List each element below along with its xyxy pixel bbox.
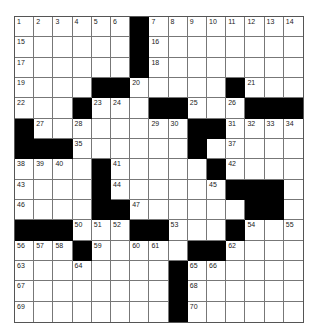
grid-cell[interactable] (130, 119, 149, 139)
grid-cell[interactable] (245, 139, 264, 159)
grid-cell[interactable] (149, 159, 168, 179)
grid-cell[interactable]: 22 (15, 98, 34, 118)
grid-cell[interactable] (284, 139, 303, 159)
grid-cell[interactable]: 45 (207, 180, 226, 200)
grid-cell[interactable] (245, 241, 264, 261)
grid-cell[interactable]: 66 (207, 261, 226, 281)
grid-cell[interactable] (92, 261, 111, 281)
grid-cell[interactable]: 51 (92, 220, 111, 240)
grid-cell[interactable]: 57 (34, 241, 53, 261)
grid-cell[interactable] (34, 58, 53, 78)
grid-cell[interactable] (73, 58, 92, 78)
grid-cell[interactable] (188, 200, 207, 220)
grid-cell[interactable]: 62 (226, 241, 245, 261)
grid-cell[interactable] (226, 302, 245, 322)
grid-cell[interactable]: 1 (15, 17, 34, 37)
grid-cell[interactable] (92, 302, 111, 322)
grid-cell[interactable]: 59 (92, 241, 111, 261)
grid-cell[interactable] (284, 200, 303, 220)
grid-cell[interactable] (34, 37, 53, 57)
grid-cell[interactable]: 31 (226, 119, 245, 139)
grid-cell[interactable]: 12 (245, 17, 264, 37)
grid-cell[interactable] (73, 200, 92, 220)
grid-cell[interactable]: 37 (226, 139, 245, 159)
grid-cell[interactable] (53, 180, 72, 200)
grid-cell[interactable] (92, 281, 111, 301)
grid-cell[interactable] (207, 78, 226, 98)
grid-cell[interactable]: 28 (73, 119, 92, 139)
grid-cell[interactable] (53, 261, 72, 281)
grid-cell[interactable] (53, 37, 72, 57)
grid-cell[interactable] (265, 78, 284, 98)
grid-cell[interactable] (92, 58, 111, 78)
grid-cell[interactable]: 32 (245, 119, 264, 139)
grid-cell[interactable] (188, 220, 207, 240)
grid-cell[interactable]: 5 (92, 17, 111, 37)
grid-cell[interactable] (226, 281, 245, 301)
grid-cell[interactable] (149, 302, 168, 322)
grid-cell[interactable] (284, 159, 303, 179)
grid-cell[interactable]: 47 (130, 200, 149, 220)
grid-cell[interactable]: 7 (149, 17, 168, 37)
grid-cell[interactable] (53, 200, 72, 220)
grid-cell[interactable]: 27 (34, 119, 53, 139)
grid-cell[interactable]: 13 (265, 17, 284, 37)
grid-cell[interactable]: 21 (245, 78, 264, 98)
grid-cell[interactable]: 15 (15, 37, 34, 57)
grid-cell[interactable] (149, 200, 168, 220)
grid-cell[interactable] (53, 98, 72, 118)
grid-cell[interactable] (130, 281, 149, 301)
grid-cell[interactable] (111, 37, 130, 57)
grid-cell[interactable]: 9 (188, 17, 207, 37)
grid-cell[interactable] (130, 139, 149, 159)
grid-cell[interactable] (245, 281, 264, 301)
grid-cell[interactable]: 23 (92, 98, 111, 118)
grid-cell[interactable] (92, 37, 111, 57)
grid-cell[interactable] (149, 180, 168, 200)
grid-cell[interactable]: 17 (15, 58, 34, 78)
grid-cell[interactable] (34, 261, 53, 281)
grid-cell[interactable] (34, 78, 53, 98)
grid-cell[interactable]: 54 (245, 220, 264, 240)
grid-cell[interactable] (169, 241, 188, 261)
grid-cell[interactable] (73, 302, 92, 322)
grid-cell[interactable]: 50 (73, 220, 92, 240)
grid-cell[interactable] (226, 37, 245, 57)
grid-cell[interactable]: 39 (34, 159, 53, 179)
grid-cell[interactable] (226, 200, 245, 220)
grid-cell[interactable] (169, 37, 188, 57)
grid-cell[interactable]: 6 (111, 17, 130, 37)
grid-cell[interactable] (34, 180, 53, 200)
grid-cell[interactable] (53, 119, 72, 139)
grid-cell[interactable] (73, 37, 92, 57)
grid-cell[interactable] (207, 58, 226, 78)
grid-cell[interactable] (73, 159, 92, 179)
grid-cell[interactable] (34, 200, 53, 220)
grid-cell[interactable]: 42 (226, 159, 245, 179)
grid-cell[interactable] (188, 78, 207, 98)
grid-cell[interactable] (34, 98, 53, 118)
grid-cell[interactable] (169, 159, 188, 179)
grid-cell[interactable] (130, 98, 149, 118)
grid-cell[interactable] (265, 241, 284, 261)
grid-cell[interactable]: 18 (149, 58, 168, 78)
grid-cell[interactable]: 44 (111, 180, 130, 200)
grid-cell[interactable]: 20 (130, 78, 149, 98)
grid-cell[interactable] (73, 281, 92, 301)
grid-cell[interactable] (284, 241, 303, 261)
grid-cell[interactable]: 56 (15, 241, 34, 261)
grid-cell[interactable]: 68 (188, 281, 207, 301)
grid-cell[interactable] (188, 159, 207, 179)
grid-cell[interactable]: 60 (130, 241, 149, 261)
grid-cell[interactable] (245, 261, 264, 281)
grid-cell[interactable]: 24 (111, 98, 130, 118)
grid-cell[interactable] (245, 37, 264, 57)
grid-cell[interactable]: 63 (15, 261, 34, 281)
grid-cell[interactable]: 61 (149, 241, 168, 261)
grid-cell[interactable] (265, 37, 284, 57)
grid-cell[interactable]: 19 (15, 78, 34, 98)
grid-cell[interactable] (149, 261, 168, 281)
grid-cell[interactable] (188, 180, 207, 200)
grid-cell[interactable]: 69 (15, 302, 34, 322)
grid-cell[interactable] (92, 139, 111, 159)
